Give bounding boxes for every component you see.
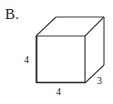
dimension-label-width: 4 bbox=[56, 86, 61, 97]
dimension-label-height: 4 bbox=[24, 54, 29, 65]
figure-container: B. 4 4 3 bbox=[0, 0, 113, 104]
dimension-label-depth: 3 bbox=[97, 75, 102, 86]
cube-front-face bbox=[36, 36, 85, 83]
